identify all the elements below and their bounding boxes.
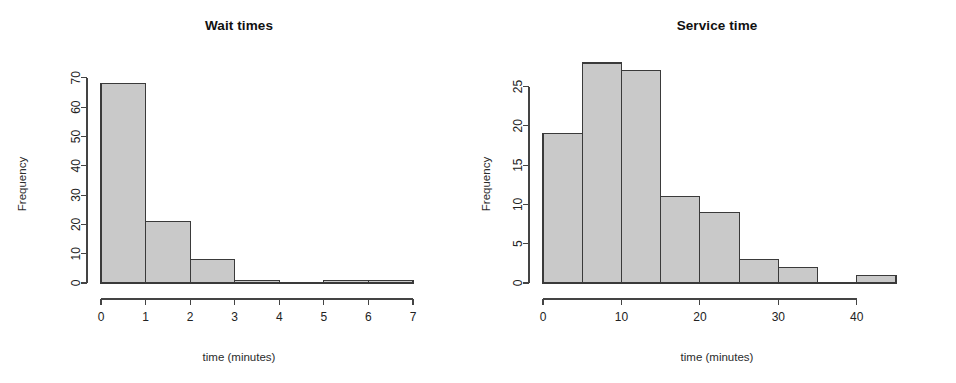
y-axis-tick-label: 20	[69, 217, 83, 231]
x-axis-tick-label: 0	[540, 310, 547, 324]
histogram-bars	[101, 84, 413, 283]
histogram-figure: Wait times Frequency 0123456701020304050…	[0, 0, 956, 383]
bar-rect	[368, 280, 413, 283]
histogram-bar	[324, 280, 369, 283]
y-axis-tick-label: 20	[511, 119, 525, 133]
y-axis-tick-label: 70	[69, 71, 83, 85]
y-axis-tick-label: 50	[69, 129, 83, 143]
bar-rect	[543, 134, 582, 283]
histogram-bar	[101, 84, 146, 283]
bar-rect	[778, 267, 817, 283]
bar-rect	[101, 84, 146, 283]
bar-rect	[700, 212, 739, 283]
histogram-bar	[621, 71, 660, 283]
histogram-bar	[146, 221, 191, 283]
y-axis: 010203040506070	[69, 71, 87, 286]
y-axis-tick-label: 60	[69, 100, 83, 114]
bar-rect	[324, 280, 369, 283]
y-axis-tick-label: 40	[69, 159, 83, 173]
x-axis-tick-label: 40	[850, 310, 864, 324]
y-axis-tick-label: 0	[69, 279, 83, 286]
x-axis-tick-label: 30	[772, 310, 786, 324]
y-axis-tick-label: 5	[511, 240, 525, 247]
histogram-bar	[190, 260, 235, 283]
x-axis-tick-label: 5	[321, 310, 328, 324]
bar-rect	[739, 259, 778, 283]
histogram-bar	[661, 197, 700, 283]
histogram-bar	[700, 212, 739, 283]
x-axis-tick-label: 3	[231, 310, 238, 324]
bar-rect	[190, 260, 235, 283]
bar-rect	[146, 221, 191, 283]
histogram-bar	[543, 134, 582, 283]
bar-rect	[621, 71, 660, 283]
x-axis: 010203040	[540, 299, 864, 324]
x-axis: 01234567	[98, 299, 417, 324]
x-axis-label-wait-times: time (minutes)	[0, 351, 478, 363]
histogram-bar	[857, 275, 896, 283]
y-axis-tick-label: 0	[511, 279, 525, 286]
y-axis-tick-label: 25	[511, 80, 525, 94]
histogram-bar	[778, 267, 817, 283]
x-axis-tick-label: 2	[187, 310, 194, 324]
histogram-bar	[582, 63, 621, 283]
x-axis-tick-label: 10	[615, 310, 629, 324]
y-axis-tick-label: 30	[69, 188, 83, 202]
histogram-bar	[235, 280, 280, 283]
bar-rect	[235, 280, 280, 283]
bar-rect	[661, 197, 700, 283]
y-axis-tick-label: 10	[69, 247, 83, 261]
plot-area-service-time: 0102030400510152025	[478, 0, 956, 383]
x-axis-tick-label: 7	[410, 310, 417, 324]
bar-rect	[582, 63, 621, 283]
x-axis-tick-label: 0	[98, 310, 105, 324]
x-axis-tick-label: 1	[142, 310, 149, 324]
bar-rect	[857, 275, 896, 283]
plot-area-wait-times: 01234567010203040506070	[0, 0, 478, 383]
y-axis-tick-label: 15	[511, 158, 525, 172]
panel-service-time: Service time Frequency 01020304005101520…	[478, 0, 956, 383]
y-axis: 0510152025	[511, 80, 529, 287]
histogram-bar	[739, 259, 778, 283]
histogram-bar	[368, 280, 413, 283]
x-axis-tick-label: 6	[365, 310, 372, 324]
x-axis-tick-label: 20	[693, 310, 707, 324]
panel-wait-times: Wait times Frequency 0123456701020304050…	[0, 0, 478, 383]
x-axis-label-service-time: time (minutes)	[478, 351, 956, 363]
histogram-bars	[543, 63, 896, 283]
y-axis-tick-label: 10	[511, 197, 525, 211]
x-axis-tick-label: 4	[276, 310, 283, 324]
